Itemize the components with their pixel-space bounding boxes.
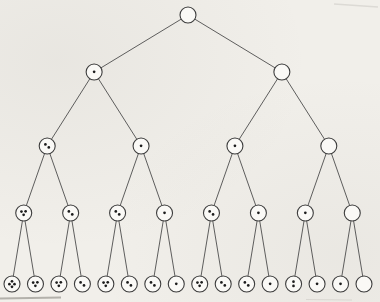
node-circle [274, 64, 290, 80]
node-dot [8, 283, 11, 286]
node-dot [140, 144, 143, 147]
scan-artifact-bottom-left-line [0, 298, 61, 299]
node-dot [212, 213, 215, 216]
node-circle [4, 276, 20, 292]
tree-edge [165, 213, 177, 284]
tree-edge [106, 213, 118, 284]
node-dot [102, 281, 105, 284]
node-dot [153, 284, 156, 287]
node-dot [83, 284, 86, 287]
tree-edge [294, 213, 306, 284]
node-dot [269, 282, 272, 285]
node-dot [200, 281, 203, 284]
tree-node-l4-n9 [215, 276, 231, 292]
binary-tree-diagram [0, 0, 380, 302]
node-dot [257, 211, 260, 214]
tree-node-l4-n13 [309, 276, 325, 292]
tree-edge [12, 213, 24, 284]
node-dot [57, 284, 60, 287]
tree-node-l4-n11 [262, 276, 278, 292]
tree-edge [153, 213, 165, 284]
tree-node-l2-n0 [39, 138, 55, 154]
node-dot [292, 280, 295, 283]
node-dot [163, 211, 166, 214]
tree-edges [12, 15, 364, 284]
node-dot [114, 210, 117, 213]
tree-node-l2-n2 [227, 138, 243, 154]
scanned-page [0, 0, 380, 302]
node-dot [24, 210, 27, 213]
node-dot [79, 281, 82, 284]
node-circle [203, 205, 219, 221]
node-circle [74, 276, 90, 292]
node-circle [16, 205, 32, 221]
node-circle [344, 205, 360, 221]
tree-edge [305, 213, 317, 284]
node-dot [247, 284, 250, 287]
tree-node-l0-n0 [180, 7, 196, 23]
tree-edge [24, 146, 47, 213]
tree-node-l4-n4 [98, 276, 114, 292]
tree-node-l4-n0 [4, 276, 20, 292]
tree-node-l3-n5 [250, 205, 266, 221]
node-dot [36, 281, 39, 284]
tree-edge [94, 72, 141, 146]
tree-edge [59, 213, 71, 284]
node-dot [244, 281, 247, 284]
node-dot [126, 281, 129, 284]
tree-edge [141, 146, 164, 213]
node-dot [118, 213, 121, 216]
tree-edge [188, 15, 282, 72]
tree-edge [329, 146, 352, 213]
tree-node-l3-n4 [203, 205, 219, 221]
tree-node-l3-n1 [63, 205, 79, 221]
node-circle [121, 276, 137, 292]
node-circle [110, 205, 126, 221]
node-dot [150, 281, 153, 284]
tree-edge [94, 15, 188, 72]
node-circle [192, 276, 208, 292]
node-dot [220, 281, 223, 284]
tree-edge [258, 213, 270, 284]
tree-edge [200, 213, 212, 284]
node-dot [208, 210, 211, 213]
tree-edge [47, 72, 94, 146]
node-circle [98, 276, 114, 292]
tree-edge [118, 146, 141, 213]
tree-node-l4-n1 [27, 276, 43, 292]
node-circle [63, 205, 79, 221]
node-circle [27, 276, 43, 292]
node-dot [59, 281, 62, 284]
node-dot [292, 285, 295, 288]
tree-node-l4-n6 [145, 276, 161, 292]
tree-edge [47, 146, 70, 213]
node-circle [239, 276, 255, 292]
node-dot [198, 284, 201, 287]
tree-node-l2-n3 [321, 138, 337, 154]
tree-node-l4-n8 [192, 276, 208, 292]
tree-edge [341, 213, 353, 284]
node-circle [51, 276, 67, 292]
node-circle [286, 276, 302, 292]
tree-node-l4-n7 [168, 276, 184, 292]
node-circle [180, 7, 196, 23]
node-dot [316, 282, 319, 285]
node-dot [175, 282, 178, 285]
tree-node-l3-n2 [110, 205, 126, 221]
node-dot [11, 280, 14, 283]
node-dot [13, 283, 16, 286]
tree-node-l3-n3 [157, 205, 173, 221]
tree-node-l3-n0 [16, 205, 32, 221]
node-circle [356, 276, 372, 292]
node-dot [20, 210, 23, 213]
node-dot [71, 213, 74, 216]
scan-artifact-bottom-right-mark [306, 300, 352, 301]
tree-edge [235, 146, 258, 213]
node-circle [145, 276, 161, 292]
tree-edge [247, 213, 259, 284]
tree-node-l3-n6 [297, 205, 313, 221]
node-dot [223, 284, 226, 287]
tree-edge [211, 213, 223, 284]
node-circle [39, 138, 55, 154]
tree-node-l4-n2 [51, 276, 67, 292]
